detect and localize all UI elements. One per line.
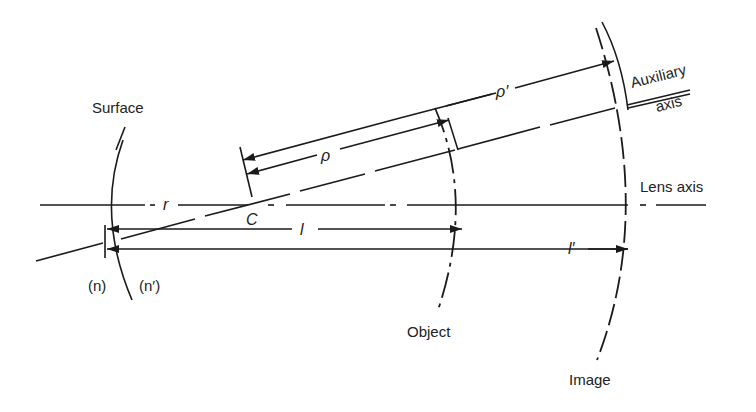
image-arc bbox=[596, 28, 626, 360]
image-label: Image bbox=[569, 371, 611, 388]
rho-prime-symbol: ρ′ bbox=[495, 83, 509, 100]
rho-arrow-right bbox=[340, 120, 449, 149]
refracting-surface-arc bbox=[111, 140, 132, 300]
surface-label: Surface bbox=[92, 99, 144, 116]
lens-axis-label: Lens axis bbox=[640, 178, 703, 195]
object-extension-line bbox=[448, 118, 458, 150]
n-label: (n) bbox=[88, 277, 106, 294]
rho-prime-arrow bbox=[515, 61, 614, 88]
auxiliary-axis-label-1: Auxiliary bbox=[629, 61, 689, 91]
object-arc bbox=[435, 108, 456, 310]
object-distance-symbol: l bbox=[300, 221, 304, 238]
center-symbol: C bbox=[246, 211, 258, 228]
auxiliary-axis-label-2: axis bbox=[654, 92, 684, 115]
rho-symbol: ρ bbox=[320, 147, 330, 164]
n-prime-label: (n′) bbox=[139, 277, 160, 294]
radius-symbol: r bbox=[163, 196, 169, 213]
rho-arrow-left bbox=[247, 155, 317, 174]
optics-diagram: Surface Auxiliary axis Lens axis Object … bbox=[0, 0, 756, 412]
image-distance-symbol: l′ bbox=[568, 240, 576, 257]
object-label: Object bbox=[407, 323, 451, 340]
rho-prime-line-left bbox=[446, 93, 496, 106]
rho-extension-line bbox=[240, 147, 252, 197]
